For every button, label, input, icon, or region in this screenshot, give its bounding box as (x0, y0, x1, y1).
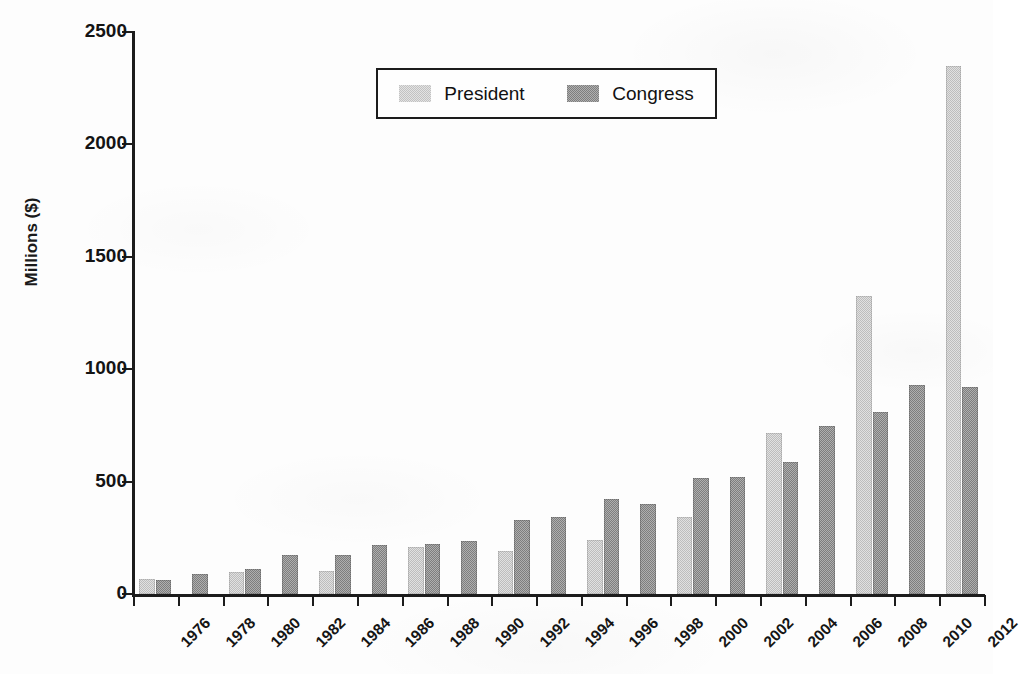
bar-congress-1992 (514, 520, 530, 594)
bar-congress-1976 (156, 580, 172, 594)
x-axis-label-2008: 2008 (894, 614, 931, 651)
bar-congress-2006 (819, 426, 835, 594)
bar-president-1980 (229, 572, 245, 594)
x-axis-label-1990: 1990 (491, 614, 528, 651)
x-tick-mark (626, 595, 628, 606)
chart-legend: President Congress (376, 68, 717, 119)
bar-congress-2002 (730, 477, 746, 594)
x-axis-label-1980: 1980 (267, 614, 304, 651)
y-tick-label: 2000 (85, 132, 127, 154)
x-tick-mark (267, 595, 269, 606)
x-tick-mark (491, 595, 493, 606)
x-axis-label-1998: 1998 (670, 614, 707, 651)
x-axis-label-2004: 2004 (805, 614, 842, 651)
bar-congress-1994 (551, 517, 567, 594)
y-tick-label: 0 (116, 582, 127, 604)
x-axis-label-1978: 1978 (222, 614, 259, 651)
x-tick-mark (984, 595, 986, 606)
x-axis-line (132, 594, 985, 597)
x-tick-mark (805, 595, 807, 606)
bar-president-1988 (408, 547, 424, 594)
bar-congress-1984 (335, 555, 351, 594)
president-swatch-icon (399, 85, 431, 102)
x-tick-mark (133, 595, 135, 606)
x-tick-mark (894, 595, 896, 606)
x-tick-mark (850, 595, 852, 606)
x-axis-label-1988: 1988 (446, 614, 483, 651)
x-tick-mark (178, 595, 180, 606)
bar-president-2008 (856, 296, 872, 594)
x-axis-label-1986: 1986 (401, 614, 438, 651)
bar-congress-1980 (245, 569, 261, 594)
bar-congress-1986 (372, 545, 388, 594)
x-axis-label-2002: 2002 (760, 614, 797, 651)
bar-president-2000 (677, 517, 693, 594)
x-axis-label-1992: 1992 (536, 614, 573, 651)
bar-president-1984 (319, 571, 335, 594)
legend-entry-congress: Congress (567, 83, 693, 105)
bar-congress-1978 (192, 574, 208, 594)
bar-congress-2004 (783, 462, 799, 594)
bar-president-2012 (946, 66, 962, 594)
bar-congress-2000 (693, 478, 709, 594)
bar-congress-2012 (962, 387, 978, 594)
bar-congress-1990 (461, 541, 477, 595)
x-tick-mark (223, 595, 225, 606)
x-axis-label-2010: 2010 (939, 614, 976, 651)
x-axis-label-1996: 1996 (625, 614, 662, 651)
x-axis-label-2000: 2000 (715, 614, 752, 651)
y-tick-label: 1000 (85, 357, 127, 379)
x-tick-mark (312, 595, 314, 606)
x-tick-mark (939, 595, 941, 606)
bar-congress-1988 (425, 544, 441, 594)
y-tick-label: 500 (95, 470, 127, 492)
x-tick-mark (581, 595, 583, 606)
x-axis-label-1984: 1984 (357, 614, 394, 651)
legend-label-president: President (444, 83, 524, 105)
y-axis-line (132, 31, 135, 595)
bar-president-1992 (498, 551, 514, 594)
x-axis-label-2012: 2012 (984, 614, 1021, 651)
bar-president-2004 (766, 433, 782, 594)
y-tick-label: 2500 (85, 20, 127, 42)
bar-congress-2010 (909, 385, 925, 594)
x-tick-mark (402, 595, 404, 606)
congress-swatch-icon (567, 85, 599, 102)
bar-congress-2008 (873, 412, 889, 594)
bar-congress-1996 (604, 499, 620, 594)
legend-label-congress: Congress (612, 83, 693, 105)
bar-congress-1982 (282, 555, 298, 594)
bar-congress-1998 (640, 504, 656, 594)
legend-entry-president: President (399, 83, 524, 105)
bar-president-1996 (587, 540, 603, 594)
x-axis-label-1976: 1976 (177, 614, 214, 651)
x-tick-mark (536, 595, 538, 606)
y-axis-title: Millions ($) (22, 162, 42, 322)
x-tick-mark (715, 595, 717, 606)
x-axis-label-2006: 2006 (849, 614, 886, 651)
x-tick-mark (357, 595, 359, 606)
x-tick-mark (760, 595, 762, 606)
x-axis-label-1994: 1994 (581, 614, 618, 651)
y-tick-label: 1500 (85, 245, 127, 267)
x-axis-label-1982: 1982 (312, 614, 349, 651)
bar-president-1976 (139, 579, 155, 594)
x-tick-mark (670, 595, 672, 606)
x-tick-mark (447, 595, 449, 606)
